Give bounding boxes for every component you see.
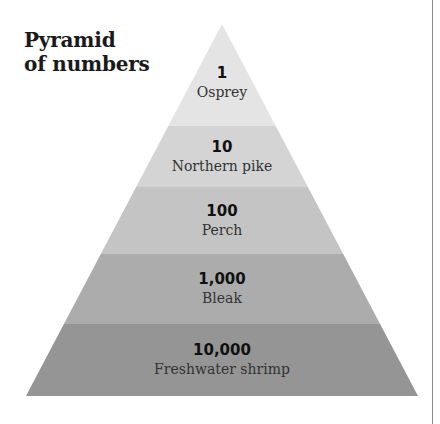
level-label-osprey: 1 Osprey: [26, 64, 418, 102]
level-organism: Northern pike: [26, 156, 418, 176]
level-organism: Perch: [26, 220, 418, 240]
level-label-perch: 100 Perch: [26, 202, 418, 240]
level-count: 10,000: [26, 341, 418, 359]
page-divider-line: [432, 0, 433, 424]
level-count: 10: [26, 138, 418, 156]
level-count: 1,000: [26, 270, 418, 288]
level-organism: Freshwater shrimp: [26, 359, 418, 379]
level-count: 100: [26, 202, 418, 220]
level-count: 1: [26, 64, 418, 82]
level-organism: Bleak: [26, 288, 418, 308]
level-label-freshwater-shrimp: 10,000 Freshwater shrimp: [26, 341, 418, 379]
level-label-northern-pike: 10 Northern pike: [26, 138, 418, 176]
level-organism: Osprey: [26, 82, 418, 102]
level-label-bleak: 1,000 Bleak: [26, 270, 418, 308]
